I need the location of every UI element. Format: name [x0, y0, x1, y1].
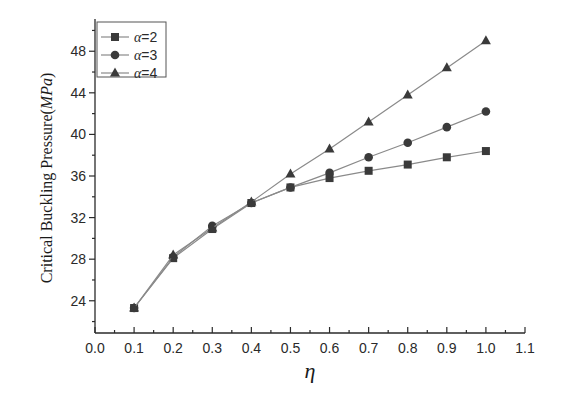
x-tick-label: 0.0: [85, 340, 105, 356]
y-axis-title-unit: MPa: [38, 78, 55, 110]
legend-square-icon: [111, 33, 119, 41]
legend: α=2α=3α=4: [97, 22, 166, 81]
circle-marker: [325, 169, 334, 178]
square-marker: [443, 153, 451, 161]
y-axis-title-main: Critical Buckling Pressure(: [38, 109, 56, 283]
x-tick-label: 0.9: [437, 340, 457, 356]
y-tick-label: 36: [70, 168, 86, 184]
y-tick-label: 40: [70, 126, 86, 142]
series-line: [134, 151, 486, 308]
circle-marker: [482, 107, 491, 116]
series-triangle: [129, 35, 491, 311]
x-tick-label: 0.3: [203, 340, 223, 356]
circle-marker: [403, 138, 412, 147]
triangle-marker: [481, 35, 491, 44]
triangle-marker: [285, 168, 295, 177]
circle-marker: [443, 123, 452, 132]
y-tick-label: 44: [70, 85, 86, 101]
triangle-marker: [325, 143, 335, 152]
legend-label: α=3: [134, 47, 158, 63]
triangle-marker: [403, 89, 413, 98]
circle-marker: [364, 153, 373, 162]
legend-label: α=4: [134, 65, 158, 81]
square-marker: [365, 167, 373, 175]
circle-marker: [286, 183, 295, 192]
square-marker: [404, 161, 412, 169]
y-axis-title: Critical Buckling Pressure(MPa): [38, 73, 56, 284]
y-axis-title-close: ): [38, 73, 56, 78]
x-tick-label: 0.5: [281, 340, 301, 356]
triangle-marker: [364, 116, 374, 125]
x-tick-label: 0.6: [320, 340, 340, 356]
x-tick-label: 0.8: [398, 340, 418, 356]
triangle-marker: [442, 62, 452, 71]
x-tick-label: 1.1: [515, 340, 535, 356]
legend-circle-icon: [111, 51, 120, 60]
x-tick-label: 0.1: [124, 340, 144, 356]
x-axis-title: η: [305, 358, 316, 383]
series-line: [134, 41, 486, 308]
legend-label: α=2: [134, 29, 158, 45]
series-line: [134, 112, 486, 309]
x-tick-label: 0.4: [242, 340, 262, 356]
x-tick-label: 0.2: [163, 340, 183, 356]
x-tick-label: 0.7: [359, 340, 379, 356]
x-tick-label: 1.0: [476, 340, 496, 356]
y-tick-label: 24: [70, 293, 86, 309]
series-layer: [129, 35, 491, 312]
series-square: [130, 147, 490, 312]
y-tick-label: 28: [70, 251, 86, 267]
y-tick-label: 32: [70, 210, 86, 226]
chart: 242832364044480.00.10.20.30.40.50.60.70.…: [0, 0, 565, 401]
square-marker: [482, 147, 490, 155]
series-circle: [130, 107, 490, 312]
y-tick-label: 48: [70, 43, 86, 59]
